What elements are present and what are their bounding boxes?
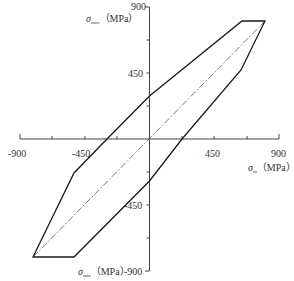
x-tick-label-neg900: -900 <box>8 148 26 159</box>
x-axis: -900 -450 450 900 <box>8 134 286 159</box>
x-tick-label-900: 900 <box>271 148 286 159</box>
x-tick-label-neg450: -450 <box>72 148 90 159</box>
y-tick-label-450: 450 <box>128 68 143 79</box>
x-tick-label-450: 450 <box>205 148 220 159</box>
y-bottom-axis-label: σmin（MPa） <box>78 266 130 278</box>
y-tick-label-neg450: -450 <box>124 200 142 211</box>
y-top-axis-label: σmax（MPa） <box>86 13 138 25</box>
y-tick-label-900: 900 <box>131 1 146 12</box>
x-axis-label: σm（MPa） <box>248 162 294 174</box>
goodman-diagram: -900 -450 450 900 900 450 -450 -900 σmax… <box>0 0 294 281</box>
